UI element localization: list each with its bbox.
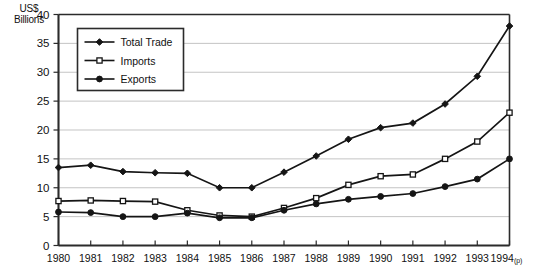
datapoint-imports-1982 [120, 198, 125, 203]
datapoint-exports-1982 [120, 214, 126, 220]
y-tick-label-5: 5 [43, 211, 49, 223]
x-tick-label-1981: 1981 [79, 252, 103, 264]
datapoint-total-trade-1982 [120, 168, 127, 175]
datapoint-imports-1988 [314, 196, 319, 201]
x-tick-label-1982: 1982 [111, 252, 135, 264]
datapoint-total-trade-1980 [55, 164, 62, 171]
chart-legend: Total TradeImportsExports [78, 29, 184, 91]
x-tick-label-1992: 1992 [433, 252, 457, 264]
datapoint-total-trade-1989 [345, 136, 352, 143]
datapoint-exports-1980 [56, 209, 62, 215]
datapoint-total-trade-1981 [87, 162, 94, 169]
datapoint-total-trade-1983 [152, 169, 159, 176]
legend-label-imports: Imports [121, 55, 156, 67]
datapoint-exports-1986 [249, 215, 255, 221]
datapoint-exports-1981 [88, 210, 94, 216]
y-tick-label-0: 0 [43, 240, 49, 252]
datapoint-imports-1989 [346, 182, 351, 187]
x-tick-label-1987: 1987 [272, 252, 296, 264]
legend-marker-exports [97, 76, 103, 82]
y-tick-label-10: 10 [37, 182, 50, 194]
y-tick-label-15: 15 [37, 153, 50, 165]
x-tick-label-1980: 1980 [47, 252, 71, 264]
y-tick-label-25: 25 [37, 95, 50, 107]
datapoint-exports-1988 [313, 201, 319, 207]
datapoint-exports-1987 [281, 207, 287, 213]
x-tick-label-1990: 1990 [369, 252, 393, 264]
x-tick-label-1985: 1985 [208, 252, 232, 264]
datapoint-exports-1985 [217, 215, 223, 221]
datapoint-exports-1994 [507, 156, 513, 162]
datapoint-imports-1992 [442, 156, 447, 161]
datapoint-imports-1981 [88, 198, 93, 203]
x-tick-label-1994: 1994(p) [491, 252, 523, 265]
datapoint-total-trade-1985 [216, 184, 223, 191]
x-tick-label-1983: 1983 [143, 252, 167, 264]
datapoint-exports-1992 [442, 184, 448, 190]
datapoint-imports-1993 [475, 139, 480, 144]
series-exports [56, 156, 513, 221]
datapoint-total-trade-1984 [184, 170, 191, 177]
datapoint-imports-1994 [507, 110, 512, 115]
y-tick-label-35: 35 [37, 37, 50, 49]
x-axis-ticks: 1980198119821983198419851986198719881989… [47, 241, 523, 265]
datapoint-total-trade-1988 [313, 153, 320, 160]
datapoint-exports-1991 [410, 191, 416, 197]
datapoint-exports-1983 [152, 214, 158, 220]
y-tick-label-30: 30 [37, 66, 50, 78]
y-axis-unit-line-2: Billions [4, 15, 54, 26]
datapoint-exports-1989 [346, 196, 352, 202]
y-axis-unit-line-1: US$ [4, 4, 54, 15]
y-axis-ticks: 0510152025303540 [37, 9, 59, 252]
x-tick-label-1993: 1993 [466, 252, 490, 264]
x-tick-label-1986: 1986 [240, 252, 264, 264]
datapoint-exports-1993 [474, 176, 480, 182]
datapoint-imports-1983 [153, 199, 158, 204]
y-axis-unit-label: US$ Billions [4, 4, 54, 25]
x-tick-label-1989: 1989 [337, 252, 361, 264]
datapoint-total-trade-1987 [281, 169, 288, 176]
y-tick-label-20: 20 [37, 124, 50, 136]
datapoint-exports-1984 [184, 210, 190, 216]
datapoint-imports-1980 [56, 198, 61, 203]
x-tick-suffix: (p) [514, 257, 523, 265]
x-tick-label-1991: 1991 [401, 252, 425, 264]
datapoint-total-trade-1986 [248, 184, 255, 191]
x-tick-label-1988: 1988 [305, 252, 329, 264]
legend-label-exports: Exports [121, 73, 157, 85]
legend-label-total-trade: Total Trade [121, 36, 173, 48]
chart-canvas: 0510152025303540 19801981198219831984198… [0, 0, 553, 272]
x-tick-label-1984: 1984 [176, 252, 200, 264]
datapoint-exports-1990 [378, 194, 384, 200]
datapoint-imports-1991 [410, 172, 415, 177]
series-imports [56, 110, 512, 219]
datapoint-imports-1990 [378, 174, 383, 179]
legend-marker-imports [97, 58, 102, 63]
line-chart: US$ Billions 0510152025303540 1980198119… [0, 0, 553, 272]
